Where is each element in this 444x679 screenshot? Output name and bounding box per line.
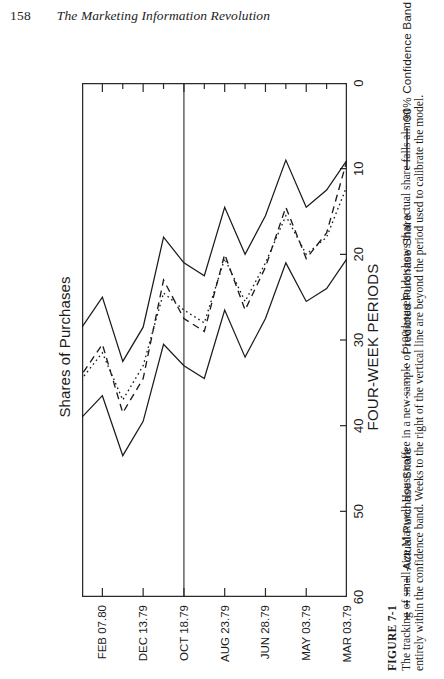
legend-swatch-dashed — [402, 577, 412, 619]
figure-rotated-stage: FIGURE 7-1 The tracking of small-size Ma… — [20, 37, 424, 671]
series-dotted — [82, 185, 347, 399]
legend-item: 90% Confidence Band — [400, 1, 414, 169]
x-axis-tick-labels: MAR 03.79MAY 03.79JUN 28.79AUG 23.79OCT … — [82, 601, 347, 637]
x-tick-label: DEC 13.79 — [137, 605, 149, 661]
x-tick-label: MAY 03.79 — [300, 605, 312, 661]
x-axis-title: FOUR-WEEK PERIODS — [364, 57, 381, 637]
legend-item: Predicted Purchase Share — [400, 214, 414, 403]
legend-label: 90% Confidence Band — [400, 1, 414, 120]
legend-swatch-dotted — [402, 361, 412, 403]
legend-label: Actual Purchase Share — [400, 447, 414, 570]
book-title: The Marketing Information Revolution — [57, 8, 270, 23]
legend-item: Actual Purchase Share — [400, 447, 414, 619]
chart-title: Shares of Purchases — [56, 57, 73, 637]
figure-container: FIGURE 7-1 The tracking of small-size Ma… — [0, 28, 444, 679]
x-tick-label: JUN 28.79 — [259, 605, 271, 659]
x-tick-label: OCT 18.79 — [178, 605, 190, 661]
x-tick-label: FEB 07.80 — [96, 605, 108, 659]
legend-swatch-solid — [402, 128, 412, 170]
plot-svg — [82, 83, 347, 597]
chart-legend: Actual Purchase SharePredicted Purchase … — [396, 37, 418, 637]
page-number: 158 — [10, 8, 31, 23]
plot-area — [82, 83, 347, 597]
series-dashed — [82, 160, 347, 413]
legend-label: Predicted Purchase Share — [400, 214, 414, 354]
x-tick-label: AUG 23.79 — [219, 605, 231, 662]
series-confidence-band — [82, 160, 347, 361]
running-head: 158 The Marketing Information Revolution — [10, 6, 434, 28]
chart: Shares of Purchases MAR 03.79MAY 03.79JU… — [56, 57, 356, 637]
